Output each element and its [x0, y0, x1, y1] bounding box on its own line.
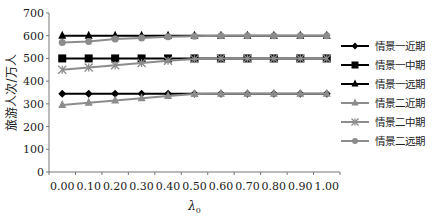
legend: 情景一近期情景一中期情景一远期情景二近期情景二中期情景二远期: [341, 40, 425, 147]
diamond-marker: [58, 90, 66, 98]
legend-label: 情景一近期: [375, 40, 425, 52]
x-tick-label: 1.00: [315, 180, 340, 193]
circle-marker: [297, 32, 304, 39]
circle-marker: [85, 38, 92, 45]
x-tick-label: 0.30: [129, 180, 154, 193]
legend-item: 情景一近期: [341, 40, 425, 52]
x-tick-label: 0.00: [50, 180, 75, 193]
line-chart: 01002003004005006007000.000.100.200.300.…: [0, 0, 432, 223]
x-tick-label: 0.80: [262, 180, 287, 193]
square-marker: [58, 54, 66, 62]
legend-label: 情景二中期: [375, 116, 425, 128]
circle-marker: [323, 32, 330, 39]
y-tick-label: 600: [23, 30, 44, 43]
circle-marker: [270, 32, 277, 39]
circle-marker: [352, 138, 358, 144]
x-tick-label: 0.90: [288, 180, 313, 193]
legend-item: 情景二近期: [341, 97, 425, 109]
x-tick-label: 0.40: [156, 180, 181, 193]
series-情景二远期: [59, 32, 331, 46]
circle-marker: [112, 36, 119, 43]
circle-marker: [191, 33, 198, 40]
x-tick-label: 0.50: [182, 180, 207, 193]
series-group: [58, 31, 331, 108]
y-tick-label: 700: [23, 7, 44, 20]
legend-label: 情景一中期: [375, 59, 425, 71]
diamond-marker: [85, 90, 93, 98]
circle-marker: [138, 34, 145, 41]
x-tick-label: 0.70: [235, 180, 260, 193]
square-marker: [352, 62, 359, 69]
legend-item: 情景二远期: [341, 135, 425, 147]
x-tick-label: 0.10: [76, 180, 101, 193]
x-tick-label: 0.60: [209, 180, 234, 193]
legend-item: 情景一中期: [341, 59, 425, 71]
legend-label: 情景一远期: [375, 78, 425, 90]
y-tick-label: 300: [23, 98, 44, 111]
y-axis-title: 旅游人次/万人: [5, 54, 19, 130]
legend-label: 情景二远期: [375, 135, 425, 147]
y-tick-label: 400: [23, 75, 44, 88]
y-tick-label: 100: [23, 143, 44, 156]
circle-marker: [165, 33, 172, 40]
diamond-marker: [352, 43, 359, 50]
circle-marker: [59, 39, 66, 46]
x-tick-label: 0.20: [103, 180, 128, 193]
legend-label: 情景二近期: [375, 97, 425, 109]
circle-marker: [244, 32, 251, 39]
y-tick-label: 0: [37, 166, 44, 179]
legend-item: 情景二中期: [341, 116, 425, 128]
x-axis-title: λ0: [187, 199, 201, 215]
circle-marker: [217, 32, 224, 39]
square-marker: [111, 54, 119, 62]
series-情景二近期: [58, 89, 331, 108]
square-marker: [85, 54, 93, 62]
y-tick-label: 500: [23, 52, 44, 65]
legend-item: 情景一远期: [341, 78, 425, 90]
series-情景二中期: [58, 54, 331, 73]
y-tick-label: 200: [23, 121, 44, 134]
